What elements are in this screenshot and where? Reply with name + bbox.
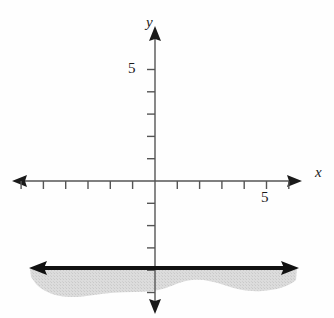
x-axis [12,175,302,189]
y-axis-label: y [146,15,153,30]
coordinate-plane [0,0,334,318]
y-axis-arrow-down [149,299,161,314]
x-axis-label: x [315,165,322,180]
x-axis-tick-label-5: 5 [261,190,269,205]
graph-figure: y x 5 5 [0,0,334,318]
y-axis-tick-label-5: 5 [128,61,136,76]
x-axis-arrow-left [12,175,27,187]
